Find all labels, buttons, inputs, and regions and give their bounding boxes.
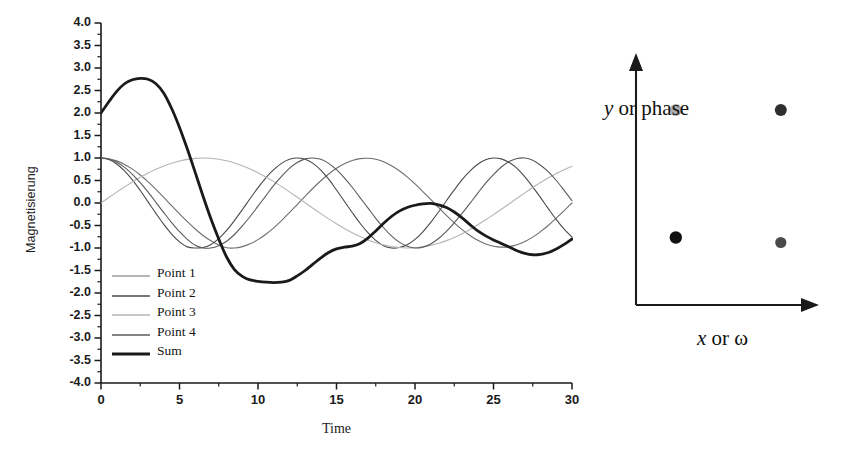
figure-root: Magnetisierung Time -4.0-3.5-3.0-2.5-2.0… xyxy=(0,0,850,465)
legend-entry-label: Point 1 xyxy=(157,265,196,281)
legend-entry-label: Point 4 xyxy=(157,324,196,340)
diagram-x-axis-arrowhead xyxy=(801,298,819,312)
series-line-point-2 xyxy=(101,158,572,248)
legend-swatch xyxy=(112,349,150,359)
y-axis-tick-label: -1.5 xyxy=(69,263,91,277)
magnetisation-line-chart: Magnetisierung Time -4.0-3.5-3.0-2.5-2.0… xyxy=(0,0,600,465)
series-group xyxy=(101,78,572,282)
x-axis-tick-label: 20 xyxy=(395,392,435,407)
y-axis-tick-label: -3.0 xyxy=(69,330,91,344)
x-axis-tick-label: 0 xyxy=(81,392,121,407)
series-line-sum xyxy=(101,78,572,282)
y-axis-tick-label: -1.0 xyxy=(69,240,91,254)
point-1-marker xyxy=(670,231,682,243)
y-axis-tick-label: 2.0 xyxy=(74,105,91,119)
legend-entry-label: Point 2 xyxy=(157,285,196,301)
diagram-y-axis-label-text: or phase xyxy=(613,96,689,120)
x-axis-title: Time xyxy=(0,421,673,437)
legend-swatch xyxy=(112,291,150,301)
y-axis-tick-label: -2.5 xyxy=(69,308,91,322)
x-axis-tick-label: 25 xyxy=(474,392,514,407)
y-axis-tick-label: 1.0 xyxy=(74,150,91,164)
y-axis-tick-label: -0.5 xyxy=(69,218,91,232)
x-axis-tick-label: 5 xyxy=(160,392,200,407)
legend-entry-label: Sum xyxy=(157,343,182,359)
diagram-y-axis-arrowhead xyxy=(629,53,643,71)
y-axis-tick-label: -4.0 xyxy=(69,375,91,389)
legend-swatch xyxy=(112,271,150,281)
legend-swatch xyxy=(112,310,150,320)
legend-swatch xyxy=(112,330,150,340)
x-axis-tick-label: 10 xyxy=(238,392,278,407)
phase-space-diagram: y or phase x or ω xyxy=(600,0,850,465)
diagram-x-axis-label-text: or ω xyxy=(706,326,748,350)
y-axis-tick-label: 0.0 xyxy=(74,195,91,209)
diagram-y-axis-label: y or phase xyxy=(604,96,689,121)
y-axis-tick-label: -2.0 xyxy=(69,285,91,299)
y-axis-tick-label: 3.0 xyxy=(74,60,91,74)
point-2-marker xyxy=(775,104,787,116)
diagram-y-axis-label-symbol: y xyxy=(604,96,613,120)
y-axis-tick-label: -3.5 xyxy=(69,353,91,367)
y-axis-tick-label: 3.5 xyxy=(74,38,91,52)
y-axis-title: Magnetisierung xyxy=(24,166,38,253)
x-axis-tick-label: 15 xyxy=(317,392,357,407)
diagram-x-axis-label: x or ω xyxy=(697,326,748,351)
x-axis-tick-label: 30 xyxy=(552,392,592,407)
point-4-marker xyxy=(775,237,786,248)
diagram-canvas xyxy=(600,0,850,465)
y-axis-tick-label: 2.5 xyxy=(74,83,91,97)
diagram-x-axis-label-symbol: x xyxy=(697,326,706,350)
y-axis-tick-label: 1.5 xyxy=(74,128,91,142)
y-axis-tick-label: 4.0 xyxy=(74,15,91,29)
y-axis-tick-label: 0.5 xyxy=(74,173,91,187)
legend-entry-label: Point 3 xyxy=(157,304,196,320)
